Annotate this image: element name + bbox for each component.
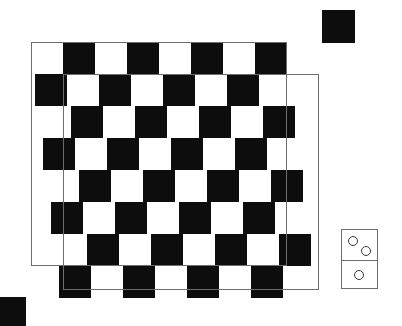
board-cell[interactable] [207,170,239,202]
board-cell[interactable] [47,170,79,202]
board-cell[interactable] [167,106,199,138]
board-cell[interactable] [59,266,91,298]
board-cell[interactable] [219,266,251,298]
board-cell[interactable] [259,74,291,106]
black-square-top-right[interactable] [322,10,355,43]
board-cell[interactable] [227,74,259,106]
board-cell[interactable] [247,234,279,266]
board-cell[interactable] [255,42,287,74]
board-cell[interactable] [263,106,295,138]
domino-tile[interactable] [341,229,378,289]
black-square-bottom-left[interactable] [0,297,26,326]
board-cell[interactable] [271,170,303,202]
board-cell[interactable] [251,266,283,298]
board-cell[interactable] [91,266,123,298]
board-cell[interactable] [127,42,159,74]
board-cell[interactable] [283,266,315,298]
board-cell[interactable] [159,42,191,74]
board-cell[interactable] [215,234,247,266]
board-cell[interactable] [243,202,275,234]
board-cell[interactable] [139,138,171,170]
board-cell[interactable] [43,138,75,170]
board-cell[interactable] [107,138,139,170]
pip-bottom-center [354,270,364,280]
board-cell[interactable] [87,234,119,266]
board-cell[interactable] [195,74,227,106]
board-cell[interactable] [147,202,179,234]
board-cell[interactable] [191,42,223,74]
board-cell[interactable] [267,138,299,170]
board-cell[interactable] [135,106,167,138]
board-cell[interactable] [67,74,99,106]
board-cell[interactable] [71,106,103,138]
board-cell[interactable] [203,138,235,170]
domino-top-half [342,230,377,260]
board-cell[interactable] [175,170,207,202]
board-cell[interactable] [179,202,211,234]
board-cell[interactable] [199,106,231,138]
board-cell[interactable] [115,202,147,234]
board-cell[interactable] [155,266,187,298]
board-cell[interactable] [123,266,155,298]
board-cell[interactable] [151,234,183,266]
board-cell[interactable] [279,234,311,266]
board-cell[interactable] [163,74,195,106]
board-cell[interactable] [143,170,175,202]
board-cell[interactable] [83,202,115,234]
board-cell[interactable] [239,170,271,202]
board-cell[interactable] [75,138,107,170]
board-cell[interactable] [111,170,143,202]
pip-top-left [348,236,358,246]
board-cell[interactable] [99,74,131,106]
board-cell[interactable] [235,138,267,170]
board-cell[interactable] [35,74,67,106]
board-cell[interactable] [231,106,263,138]
board-cell[interactable] [63,42,95,74]
board-cell[interactable] [119,234,151,266]
board-cell[interactable] [79,170,111,202]
board-cell[interactable] [55,234,87,266]
board-cell[interactable] [275,202,307,234]
board-cell[interactable] [171,138,203,170]
board-cell[interactable] [39,106,71,138]
board-cell[interactable] [131,74,163,106]
board-cell[interactable] [183,234,215,266]
pip-top-right [361,246,371,256]
board-cell[interactable] [103,106,135,138]
board-cell[interactable] [95,42,127,74]
board-cell[interactable] [187,266,219,298]
board-cell[interactable] [51,202,83,234]
board-cell[interactable] [31,42,63,74]
board-cell[interactable] [223,42,255,74]
scene-root [0,0,402,326]
board-cell[interactable] [211,202,243,234]
